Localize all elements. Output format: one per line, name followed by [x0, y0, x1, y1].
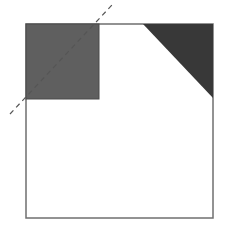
geometry-diagram [0, 0, 230, 234]
shaded-square [26, 24, 99, 99]
